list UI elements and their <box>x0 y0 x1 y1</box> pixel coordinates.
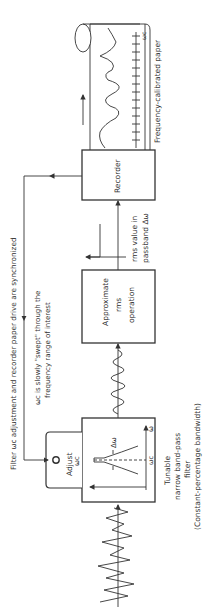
calibrated-paper <box>75 24 150 150</box>
paper-label: Frequency-calibrated paper <box>153 39 162 143</box>
filter-label-4: (Constant-percentage bandwidth) <box>193 403 202 530</box>
filtered-signal-waveform <box>111 344 125 418</box>
filter-label-3: filter <box>183 460 192 478</box>
sync-line <box>24 176 82 460</box>
rms-label-3: operation <box>127 287 136 323</box>
sweep-note-line2: frequency range of interest <box>44 302 52 398</box>
paper-roll-icon <box>75 24 91 52</box>
diagram-canvas: Filter ωc adjustment and recorder paper … <box>0 0 212 607</box>
rms-label-2: rms <box>114 298 123 312</box>
filter-label-2: narrow band-pass <box>173 433 182 500</box>
rms-output-label-2: passband Δω <box>141 213 150 263</box>
paper-scale-label: ωc <box>140 32 147 40</box>
bandwidth-label: Δω <box>110 437 118 448</box>
sync-note: Filter ωc adjustment and recorder paper … <box>9 237 18 470</box>
recorded-trace <box>100 28 120 148</box>
filter-label-1: Tunable <box>163 456 172 486</box>
adjust-symbol: ωc <box>73 456 81 466</box>
recorder-label: Recorder <box>113 158 122 193</box>
input-signal-waveform <box>98 505 134 607</box>
sweep-note-line1: ωc is slowly "swept" through the <box>34 291 42 405</box>
rms-signal <box>86 201 126 270</box>
omega-axis-label: ω <box>147 426 155 432</box>
rms-label-1: Approximate <box>101 278 110 326</box>
center-freq-label: ωc <box>147 456 155 465</box>
rms-output-label-1: rms value in <box>130 215 139 262</box>
